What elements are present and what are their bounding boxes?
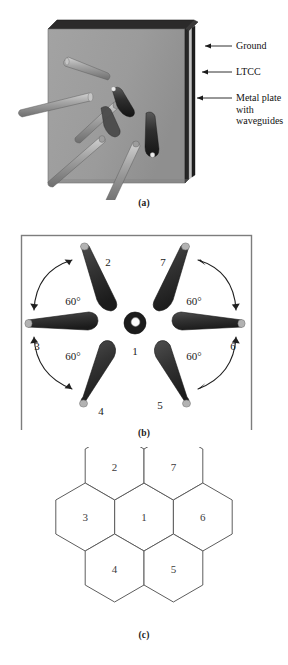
hex-label-1: 1 — [141, 511, 147, 523]
label-element-2: 2 — [105, 256, 111, 268]
hex-label-4: 4 — [112, 563, 118, 575]
panel-b-drawing: 2 7 3 6 1 4 5 60° 60° 60° 60° — [0, 215, 288, 430]
panel-a-perspective-view: Ground LTCC Metal plate with waveguides … — [0, 0, 288, 215]
horn-b1-center — [124, 312, 146, 334]
angle-label-upper-right: 60° — [186, 295, 201, 307]
panel-c-drawing: 2 7 3 1 6 4 5 — [0, 447, 288, 647]
figure-caption-fragment — [0, 658, 288, 665]
slab-ltcc-layer — [189, 28, 192, 179]
label-element-4: 4 — [98, 405, 104, 417]
hex-label-3: 3 — [82, 511, 88, 523]
hex-label-6: 6 — [200, 511, 206, 523]
hex-label-5: 5 — [171, 563, 177, 575]
slab-ground-layer — [192, 26, 195, 177]
label-element-7: 7 — [160, 256, 166, 268]
panel-b-label: (b) — [0, 428, 288, 438]
label-element-6: 6 — [230, 340, 236, 352]
label-element-3: 3 — [34, 340, 40, 352]
label-element-1: 1 — [132, 345, 138, 357]
angle-label-lower-right: 60° — [186, 350, 201, 362]
callout-leaders — [197, 43, 232, 100]
angle-label-upper-left: 60° — [65, 295, 80, 307]
callout-metal-plate: Metal plate with waveguides — [236, 92, 283, 127]
panel-c-hexagonal-cells: 2 7 3 1 6 4 5 (c) — [0, 447, 288, 665]
hex-label-2: 2 — [112, 461, 118, 473]
label-element-5: 5 — [157, 399, 163, 411]
hex-grid — [56, 447, 232, 602]
angle-label-lower-left: 60° — [65, 350, 80, 362]
slab-right-dark-edge — [185, 29, 189, 183]
hex-label-7: 7 — [171, 461, 177, 473]
panel-b-front-layout: 2 7 3 6 1 4 5 60° 60° 60° 60° (b) — [0, 215, 288, 447]
figure-container: Ground LTCC Metal plate with waveguides … — [0, 0, 288, 665]
callout-ltcc: LTCC — [236, 66, 261, 78]
panel-c-label: (c) — [0, 630, 288, 640]
callout-ground: Ground — [236, 40, 267, 52]
panel-a-label: (a) — [0, 198, 288, 208]
